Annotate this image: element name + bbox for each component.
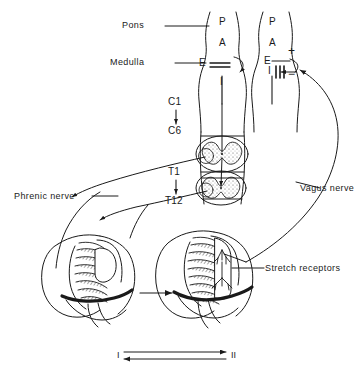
label-phrenic-nerve: Phrenic nerve	[14, 192, 75, 201]
vagus-nerve-path	[246, 70, 338, 262]
label-T1: T1	[168, 167, 180, 177]
descending-tract	[221, 104, 222, 186]
label-C6: C6	[168, 126, 181, 136]
label-left-A: A	[219, 38, 226, 48]
label-right-I: I	[268, 66, 271, 76]
label-vagus-nerve: Vagus nerve	[300, 184, 354, 193]
thorax-right	[156, 231, 264, 328]
label-left-I: I	[220, 77, 223, 87]
label-C1: C1	[168, 97, 181, 107]
label-state-I: I	[117, 351, 120, 360]
label-left-P: P	[219, 17, 226, 27]
label-stretch-receptors: Stretch receptors	[265, 264, 340, 273]
label-state-II: II	[231, 351, 236, 360]
state-I-internal-marks	[210, 57, 243, 104]
figure-canvas: Pons Medulla P A E I P A E I + − C1 C6 T…	[0, 0, 363, 372]
thorax-left	[42, 235, 135, 327]
label-excitatory-sign: +	[288, 45, 295, 57]
label-pons: Pons	[122, 21, 144, 30]
label-right-P: P	[269, 17, 276, 27]
label-medulla: Medulla	[110, 58, 144, 67]
label-left-E: E	[199, 58, 206, 68]
label-right-A: A	[269, 38, 276, 48]
cycle-arrows	[124, 352, 226, 359]
phrenic-nerve-path	[56, 157, 207, 268]
label-T12: T12	[165, 196, 183, 206]
label-inhibitory-sign: −	[288, 68, 295, 80]
